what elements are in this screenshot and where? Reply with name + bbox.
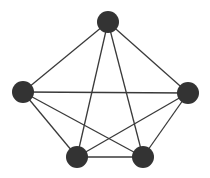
node-bottom-left [66,146,88,168]
edge-left-bottom-right [23,92,143,157]
complete-graph-diagram [0,0,210,178]
edges-group [23,22,188,157]
edge-left-bottom-left [23,92,77,157]
edge-right-bottom-left [77,93,188,157]
node-left [12,81,34,103]
edge-top-bottom-left [77,22,108,157]
edge-right-bottom-right [143,93,188,157]
node-top [97,11,119,33]
node-bottom-right [132,146,154,168]
edge-top-right [108,22,188,93]
edge-left-right [23,92,188,93]
edge-top-left [23,22,108,92]
node-right [177,82,199,104]
